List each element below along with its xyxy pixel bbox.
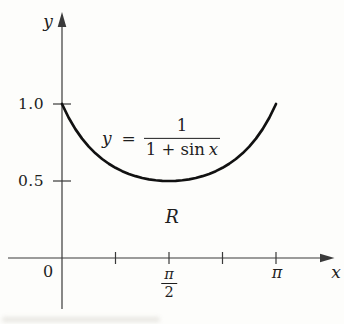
x-axis-label: x: [331, 264, 341, 281]
origin-label: 0: [43, 264, 53, 280]
ytick-label-1.0: 1.0: [18, 97, 44, 113]
figure: y x 0 1.0 0.5 π π 2 R y = 1 1 +sinx: [0, 0, 344, 324]
scan-smudge: [2, 317, 160, 322]
equation-denominator: 1 +sinx: [144, 139, 220, 161]
xtick-label-pi-over-2: π 2: [161, 268, 177, 299]
equation-numerator: 1: [144, 116, 220, 139]
y-axis-arrow-icon: [58, 12, 67, 27]
curve-equation: y = 1 1 +sinx: [102, 116, 220, 160]
xtick-label-pi: π: [272, 265, 283, 281]
region-label: R: [165, 208, 179, 226]
denominator-variable: x: [209, 140, 218, 159]
ytick-label-0.5: 0.5: [18, 174, 44, 190]
denominator-prefix: 1 +: [146, 140, 176, 159]
equation-equals: =: [122, 128, 136, 148]
pi-over-2-numerator: π: [161, 268, 177, 284]
equation-fraction: 1 1 +sinx: [144, 116, 220, 160]
pi-over-2-denominator: 2: [161, 284, 177, 299]
y-axis-label: y: [43, 13, 53, 30]
equation-lhs: y: [102, 128, 112, 148]
denominator-sin: sin: [180, 140, 204, 159]
